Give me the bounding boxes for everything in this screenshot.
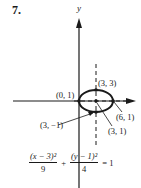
point-bottom <box>94 110 98 114</box>
label-top: (3, 3) <box>98 78 117 88</box>
point-top <box>94 88 98 92</box>
fraction-x-denominator: 9 <box>41 163 45 174</box>
label-bottom: (3, −1) <box>40 120 63 130</box>
equals-one: = 1 <box>102 158 113 168</box>
plus-sign: + <box>61 158 66 168</box>
label-right: (6, 1) <box>116 112 135 122</box>
leader-right <box>114 102 122 112</box>
leader-bottom <box>58 113 93 125</box>
ellipse-equation: (x − 3)² 9 + (y − 1)² 4 = 1 <box>28 151 116 174</box>
point-center <box>94 99 98 103</box>
y-axis-arrow-icon <box>76 18 82 28</box>
label-center: (3, 1) <box>108 126 127 136</box>
y-axis-label: y <box>76 3 81 13</box>
fraction-y-numerator: (y − 1)² <box>70 151 98 163</box>
label-left: (0, 1) <box>56 90 75 100</box>
fraction-y-denominator: 4 <box>82 163 86 174</box>
fraction-x: (x − 3)² 9 <box>29 151 57 174</box>
fraction-x-numerator: (x − 3)² <box>29 151 57 163</box>
point-left <box>77 99 81 103</box>
fraction-y: (y − 1)² 4 <box>70 151 98 174</box>
